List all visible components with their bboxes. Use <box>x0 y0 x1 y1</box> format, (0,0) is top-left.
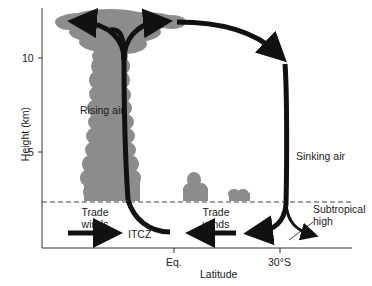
subtropical-high-label-line2: high <box>313 215 333 227</box>
x-tick-label-eq: Eq. <box>166 256 182 268</box>
trade-winds-left-label-line2: winds <box>80 218 110 230</box>
x-tick-label-30s: 30°S <box>268 256 291 268</box>
divergence-left-arrow <box>258 205 286 232</box>
rising-air-label: Rising air <box>80 104 124 116</box>
sinking-air-label: Sinking air <box>296 150 345 162</box>
x-axis-label: Latitude <box>200 268 237 280</box>
upper-poleward-arrow <box>177 22 276 52</box>
trade-winds-right-label-line2: winds <box>200 218 232 230</box>
hadley-cell-diagram: 10 5 Height (km) Eq. 30°S Latitude Risin… <box>0 0 372 286</box>
y-tick-label-10: 10 <box>22 52 34 64</box>
small-cumulus-cloud-2 <box>228 189 250 201</box>
trade-winds-right-label-line1: Trade <box>200 206 232 218</box>
subtropical-high-label-line1: Subtropical <box>313 203 366 215</box>
sinking-air-stream <box>285 64 287 205</box>
itcz-label: ITCZ <box>128 228 151 240</box>
y-axis-label: Height (km) <box>19 99 31 169</box>
divergence-right-arrow <box>286 205 310 234</box>
small-cumulus-cloud-1 <box>183 172 208 201</box>
trade-winds-left-label-line1: Trade <box>80 206 110 218</box>
